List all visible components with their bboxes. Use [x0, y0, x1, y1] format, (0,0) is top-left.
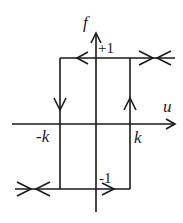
right-threshold-label: k: [134, 128, 142, 147]
upper-level-label: +1: [98, 40, 114, 56]
f-axis-label: f: [83, 13, 90, 32]
lower-level-label: -1: [99, 170, 112, 186]
left-threshold-label: -k: [36, 127, 50, 146]
diagram-svg: f u +1 -1 -k k: [0, 0, 183, 223]
hysteresis-diagram: f u +1 -1 -k k: [0, 0, 183, 223]
u-axis-label: u: [163, 97, 172, 116]
